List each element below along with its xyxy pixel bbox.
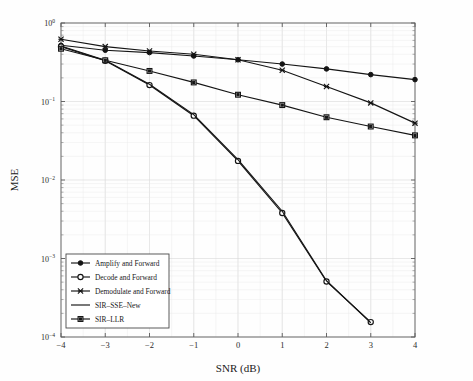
chart-legend: Amplify and ForwardDecode and ForwardDem… xyxy=(66,254,171,328)
chart-figure: −4−3−2−101234 10010−110−210−310−4 Amplif… xyxy=(0,0,473,381)
y-axis-tick-labels: 10010−110−210−310−4 xyxy=(41,18,55,342)
x-tick-label: −2 xyxy=(145,340,154,350)
legend-label: Decode and Forward xyxy=(95,273,157,282)
x-tick-label: 3 xyxy=(369,340,373,350)
x-tick-label: −3 xyxy=(101,340,110,350)
legend-label: Amplify and Forward xyxy=(95,259,160,268)
y-axis-title: MSE xyxy=(8,168,20,191)
x-tick-label: 1 xyxy=(280,340,284,350)
x-axis-title: SNR (dB) xyxy=(216,362,261,375)
x-axis-tick-labels: −4−3−2−101234 xyxy=(56,340,417,350)
x-tick-label: 0 xyxy=(236,340,240,350)
x-tick-label: 2 xyxy=(324,340,328,350)
y-tick-label: 10−2 xyxy=(41,175,55,185)
legend-label: SIR–LLR xyxy=(95,315,124,324)
x-tick-label: −4 xyxy=(56,340,66,350)
y-tick-label: 10−4 xyxy=(41,332,55,342)
x-tick-label: 4 xyxy=(413,340,418,350)
y-tick-label: 10−3 xyxy=(41,253,55,263)
legend-label: SIR–SSE–New xyxy=(95,301,141,310)
mse-vs-snr-line-chart: −4−3−2−101234 10010−110−210−310−4 Amplif… xyxy=(0,0,473,381)
y-tick-label: 100 xyxy=(44,18,55,28)
legend-label: Demodulate and Forward xyxy=(95,287,171,296)
y-tick-label: 10−1 xyxy=(41,96,55,106)
x-tick-label: −1 xyxy=(189,340,198,350)
